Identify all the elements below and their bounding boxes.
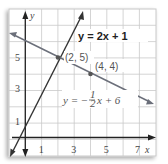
y-tick-5: 5 — [15, 52, 20, 63]
point-label-2-5: (2, 5) — [65, 52, 88, 63]
x-tick-3: 3 — [71, 144, 76, 155]
x-tick-1: 1 — [39, 144, 44, 155]
y-tick-3: 3 — [15, 83, 20, 94]
point-label-4-4: (4, 4) — [95, 61, 118, 72]
svg-text:y = −: y = − — [62, 94, 88, 106]
y-tick-1: 1 — [15, 116, 20, 127]
equation-label-line1: y = 2x + 1 — [78, 30, 128, 42]
equation-label-line2: y = − 1 2 x + 6 — [62, 88, 138, 109]
point-2-5 — [56, 55, 61, 60]
x-axis-label: x — [144, 144, 150, 155]
x-tick-7: 7 — [135, 144, 140, 155]
coordinate-plane-chart: 1 3 5 7 x 1 3 5 y (2, 5) (4, 4) y = 2x +… — [0, 0, 168, 164]
x-tick-5: 5 — [104, 144, 109, 155]
point-4-4 — [88, 72, 93, 77]
svg-text:x + 6: x + 6 — [96, 94, 121, 106]
y-axis-label: y — [29, 10, 35, 21]
svg-text:2: 2 — [90, 97, 96, 109]
